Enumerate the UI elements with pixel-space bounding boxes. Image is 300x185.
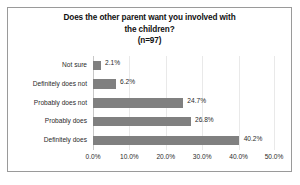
x-tick-label: 0.0%: [85, 153, 100, 160]
bar-value-label: 2.1%: [105, 59, 120, 66]
category-label: Definitely does not: [5, 75, 87, 94]
bar-value-label: 6.2%: [120, 78, 135, 85]
bar[interactable]: [93, 117, 191, 126]
category-label: Probably does not: [5, 94, 87, 113]
bar-value-label: 26.8%: [195, 116, 214, 123]
bar-series: 2.1% 6.2% 24.7% 26.8% 40.2%: [93, 56, 275, 150]
bar-row: 6.2%: [93, 75, 275, 94]
chart-title-line-1: Does the other parent want you involved …: [8, 12, 291, 24]
x-tick-label: 50.0%: [265, 153, 284, 160]
bar[interactable]: [93, 136, 239, 145]
category-label: Probably does: [5, 112, 87, 131]
chart-frame: Does the other parent want you involved …: [7, 7, 292, 172]
x-tick-label: 30.0%: [193, 153, 212, 160]
x-axis-labels: 0.0% 10.0% 20.0% 30.0% 40.0% 50.0%: [93, 151, 275, 165]
bar-row: 40.2%: [93, 131, 275, 150]
bar[interactable]: [93, 61, 101, 70]
bar[interactable]: [93, 79, 116, 88]
x-tick-label: 20.0%: [156, 153, 175, 160]
x-tick-label: 10.0%: [120, 153, 139, 160]
category-label: Definitely does: [5, 131, 87, 150]
x-tick-label: 40.0%: [229, 153, 248, 160]
bar-row: 26.8%: [93, 112, 275, 131]
plot-area: 2.1% 6.2% 24.7% 26.8% 40.2%: [93, 56, 275, 150]
bar-value-label: 40.2%: [244, 135, 263, 142]
chart-title: Does the other parent want you involved …: [8, 12, 291, 47]
chart-title-sample-size: (n=97): [8, 35, 291, 47]
bar[interactable]: [93, 98, 183, 107]
category-label: Not sure: [5, 56, 87, 75]
category-axis-labels: Not sure Definitely does not Probably do…: [8, 56, 90, 150]
bar-value-label: 24.7%: [187, 97, 206, 104]
bar-row: 24.7%: [93, 94, 275, 113]
chart-title-line-2: the children?: [8, 24, 291, 36]
bar-row: 2.1%: [93, 56, 275, 75]
